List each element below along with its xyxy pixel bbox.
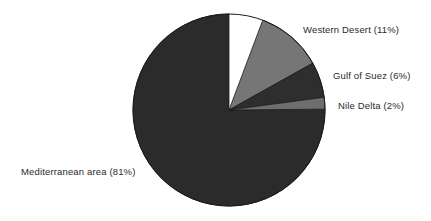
pie-label-western-desert: Western Desert (11%) — [303, 24, 399, 35]
pie-label-nile-delta: Nile Delta (2%) — [338, 100, 404, 111]
pie-chart-figure: Western Desert (11%) Gulf of Suez (6%) N… — [0, 0, 431, 221]
pie-slices — [133, 14, 325, 206]
pie-label-mediterranean-area: Mediterranean area (81%) — [21, 166, 136, 177]
pie-label-gulf-of-suez: Gulf of Suez (6%) — [333, 70, 411, 81]
